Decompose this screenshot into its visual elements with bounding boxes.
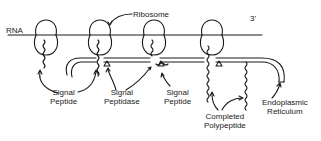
ribosome-leader xyxy=(110,14,132,24)
signal-peptidase-line-2: Peptidase xyxy=(104,97,140,106)
signal-peptide-2-line-1: Signal xyxy=(164,88,191,97)
endoplasmic-reticulum-membrane xyxy=(66,58,284,82)
completed-polypeptide-label: Completed Polypeptide xyxy=(204,112,246,130)
ribosome-2 xyxy=(88,20,111,55)
ribosome-3 xyxy=(142,20,165,55)
endoplasmic-reticulum-line-2: Reticulum xyxy=(262,107,308,116)
completed-polypeptide-leader-1 xyxy=(212,94,218,110)
peptide-3 xyxy=(151,40,153,56)
peptide-2 xyxy=(97,40,99,76)
signal-peptide-2-label: Signal Peptide xyxy=(164,88,191,106)
er-leader xyxy=(272,84,280,98)
diagram-canvas: RNA 3' Ribosome Signal Peptide Signal Pe… xyxy=(0,0,321,141)
signal-peptide-2-leader xyxy=(162,74,170,86)
signal-peptide-1-label: Signal Peptide xyxy=(50,88,77,106)
completed-polypeptide-line-1: Completed xyxy=(204,112,246,121)
completed-polypeptide-chain xyxy=(245,62,247,110)
diagram-drawing xyxy=(0,0,321,141)
ribosome-4 xyxy=(200,20,223,55)
peptide-1 xyxy=(43,40,45,68)
signal-peptidase-leader xyxy=(108,70,116,90)
rna-label: RNA xyxy=(6,26,23,35)
three-prime-label: 3' xyxy=(250,14,256,23)
signal-peptide-1-line-2: Peptide xyxy=(50,97,77,106)
signal-peptidase-label: Signal Peptidase xyxy=(104,88,140,106)
endoplasmic-reticulum-line-1: Endoplasmic xyxy=(262,98,308,107)
completed-polypeptide-line-2: Polypeptide xyxy=(204,121,246,130)
endoplasmic-reticulum-label: Endoplasmic Reticulum xyxy=(262,98,308,116)
ribosome-1 xyxy=(34,20,57,55)
signal-peptidase-line-1: Signal xyxy=(104,88,140,97)
signal-peptide-2-line-2: Peptide xyxy=(164,97,191,106)
ribosome-label: Ribosome xyxy=(133,10,169,19)
signal-peptide-1-line-1: Signal xyxy=(50,88,77,97)
